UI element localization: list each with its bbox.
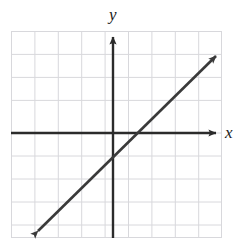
x-axis-label: x [225,124,233,141]
plotted-line [38,56,216,231]
coordinate-plane-svg [0,0,237,242]
graph-figure: x y [0,0,237,242]
grid-vertical-lines [12,31,222,238]
grid-horizontal-lines [11,32,222,238]
grid-lines [11,31,222,238]
y-axis-label: y [109,6,117,23]
